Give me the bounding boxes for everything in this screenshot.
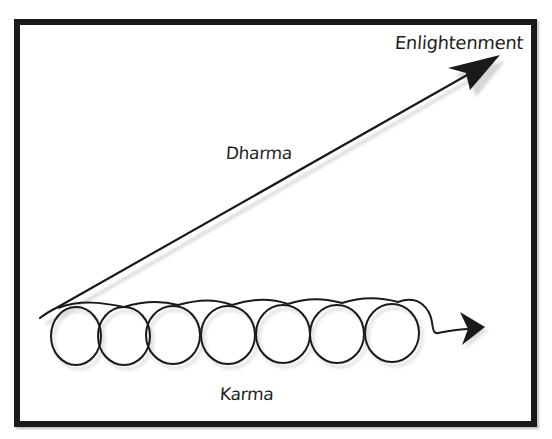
dharma-label: Dharma <box>225 143 293 163</box>
karma-loop-5 <box>256 305 310 363</box>
karma-loop-2 <box>98 307 150 365</box>
karma-loop-4 <box>201 306 255 364</box>
enlightenment-label: Enlightenment <box>394 32 524 53</box>
karma-label: Karma <box>219 384 274 404</box>
karma-loop-7 <box>365 304 419 362</box>
dharma-arrow-shadow <box>46 61 505 324</box>
karma-loop-6 <box>310 305 364 363</box>
dharma-arrow <box>40 55 500 318</box>
diagram-canvas <box>0 0 552 439</box>
karma-loop-1 <box>51 307 101 365</box>
